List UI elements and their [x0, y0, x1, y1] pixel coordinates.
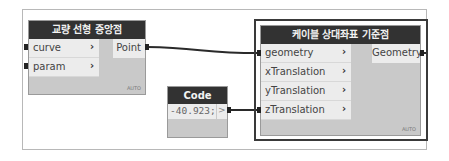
input-port-ytranslation[interactable]: yTranslation ›: [261, 82, 351, 101]
lacing-label: AUTO: [402, 126, 416, 132]
output-port-geometry[interactable]: Geometry: [372, 44, 420, 63]
port-label: curve: [33, 42, 61, 53]
port-label: param: [33, 61, 65, 72]
port-label: xTranslation: [265, 66, 325, 77]
wire-point-to-geometry[interactable]: [147, 47, 258, 53]
chevron-right-icon: ›: [342, 103, 346, 114]
node-title: 케이블 상대좌표 기준점: [261, 26, 420, 44]
output-port-point[interactable]: Point: [113, 39, 145, 58]
port-connector-icon: [257, 50, 261, 56]
node-code-block[interactable]: Code Block -40.923; >: [167, 86, 228, 138]
input-port-xtranslation[interactable]: xTranslation ›: [261, 63, 351, 82]
node-title: Code Block: [168, 87, 227, 104]
port-label: geometry: [265, 47, 313, 58]
input-port-param[interactable]: param ›: [29, 58, 99, 77]
port-connector-icon: [24, 44, 28, 50]
node-title: 교량 선형 중앙점: [29, 21, 145, 39]
code-text: -40.923;: [170, 105, 216, 116]
output-port-code[interactable]: >: [217, 104, 227, 119]
chevron-right-icon: >: [218, 105, 226, 115]
chevron-right-icon: ›: [342, 84, 346, 95]
port-label: yTranslation: [265, 85, 325, 96]
chevron-right-icon: ›: [342, 65, 346, 76]
input-port-ztranslation[interactable]: zTranslation ›: [261, 101, 351, 120]
port-connector-icon: [145, 44, 149, 50]
node-cable-reference-point[interactable]: 케이블 상대좌표 기준점 geometry › xTranslation › y…: [260, 25, 421, 136]
chevron-right-icon: ›: [90, 41, 94, 52]
code-input[interactable]: -40.923;: [168, 104, 216, 119]
port-connector-icon: [420, 50, 424, 56]
port-connector-icon: [257, 107, 261, 113]
port-connector-icon: [24, 63, 28, 69]
input-port-curve[interactable]: curve ›: [29, 39, 99, 58]
node-bridge-centerpoint[interactable]: 교량 선형 중앙점 curve › param › Point AUTO: [28, 20, 146, 95]
port-connector-icon: [227, 107, 231, 113]
port-label: zTranslation: [265, 104, 325, 115]
input-port-geometry[interactable]: geometry ›: [261, 44, 351, 63]
lacing-label: AUTO: [127, 85, 141, 91]
chevron-right-icon: ›: [342, 46, 346, 57]
chevron-right-icon: ›: [90, 60, 94, 71]
